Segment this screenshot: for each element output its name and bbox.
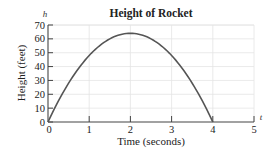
y-tick-label: 20 (35, 89, 46, 100)
chart-title: Height of Rocket (109, 7, 192, 20)
y-tick-label: 50 (35, 47, 46, 58)
y-tick-label: 70 (35, 20, 46, 31)
y-tick-label: 60 (35, 33, 46, 44)
y-tick-labels: 010203040506070 (35, 20, 46, 128)
y-axis-label: Height (feet) (15, 44, 28, 101)
rocket-height-chart: 010203040506070 012345 Height of Rocket … (0, 0, 278, 154)
x-tick-label: 4 (210, 124, 216, 135)
x-tick-label: 5 (251, 124, 256, 135)
x-tick-label: 2 (128, 124, 133, 135)
x-axis-variable: t (260, 112, 263, 122)
x-tick-label: 1 (87, 124, 92, 135)
x-tick-label: 3 (169, 124, 174, 135)
y-tick-label: 0 (40, 117, 45, 128)
y-axis-variable: h (43, 9, 48, 19)
y-tick-label: 40 (35, 61, 46, 72)
y-tick-label: 10 (35, 103, 46, 114)
x-tick-labels: 012345 (46, 124, 256, 135)
x-axis-label: Time (seconds) (117, 135, 185, 148)
y-tick-label: 30 (35, 75, 46, 86)
x-tick-label: 0 (46, 124, 51, 135)
